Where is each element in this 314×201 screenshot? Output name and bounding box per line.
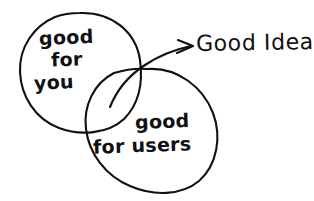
label-good-for-users-line-2: for users (93, 134, 192, 156)
label-good-for-you: good for you (32, 28, 108, 98)
label-good-for-you-line-1: good (39, 27, 94, 48)
label-good-idea: Good Idea (196, 31, 314, 55)
venn-diagram: good for you good for users Good Idea (0, 0, 314, 201)
label-good-for-users-line-1: good (135, 111, 190, 132)
label-good-for-users: good for users (93, 112, 203, 168)
callout-arrow-shaft (110, 46, 191, 107)
label-good-for-you-line-3: you (34, 72, 75, 93)
label-good-for-you-line-2: for (51, 50, 83, 70)
